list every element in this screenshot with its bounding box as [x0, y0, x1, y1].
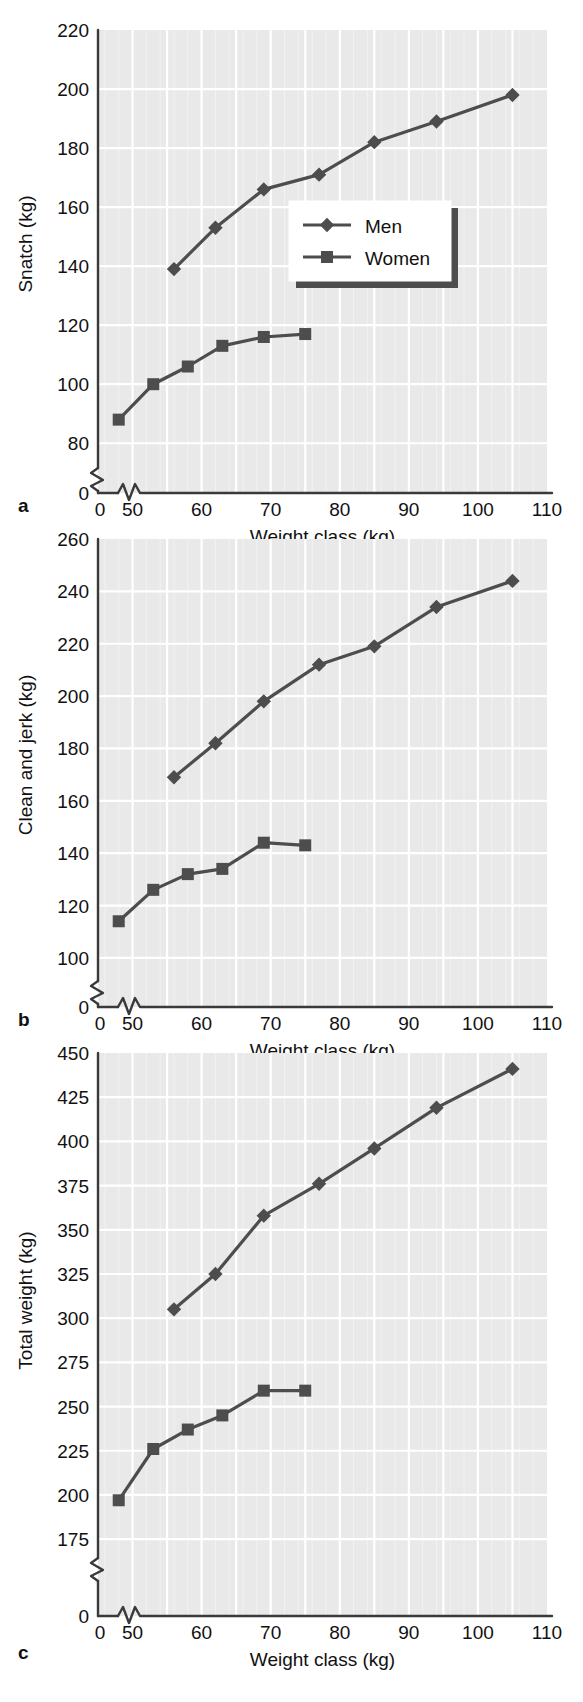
data-point-diamond	[429, 1101, 443, 1115]
y-tick-label: 100	[57, 948, 89, 969]
y-tick-label: 200	[57, 686, 89, 707]
y-tick-label: 220	[57, 20, 89, 41]
x-tick-label: 110	[532, 499, 562, 520]
x-tick-label: 90	[398, 1013, 419, 1034]
axis-lines	[91, 30, 552, 500]
axis-lines	[91, 1053, 552, 1623]
y-tick-label: 260	[57, 529, 89, 550]
legend-marker-diamond	[320, 218, 334, 232]
y-tick-label: 325	[57, 1264, 89, 1285]
series-line	[119, 843, 306, 922]
data-point-diamond	[257, 182, 271, 196]
series-men	[167, 1062, 520, 1317]
legend-marker-square	[321, 251, 333, 263]
data-point-diamond	[257, 694, 271, 708]
y-tick-label: 0	[78, 997, 89, 1018]
x-tick-label: 50	[122, 1622, 143, 1643]
panel-letter-c: c	[18, 1642, 29, 1663]
x-tick-label: 80	[329, 1622, 350, 1643]
series-women	[113, 837, 312, 928]
legend: MenWomen	[289, 201, 458, 288]
minor-grid	[105, 539, 533, 1007]
data-point-square	[147, 378, 159, 390]
major-grid	[98, 30, 547, 493]
data-point-diamond	[208, 221, 222, 235]
legend-shadow	[296, 208, 458, 288]
x-tick-label: 60	[191, 499, 212, 520]
y-axis-title: Total weight (kg)	[15, 1231, 36, 1369]
y-tick-label: 240	[57, 581, 89, 602]
x-tick-label: 90	[398, 499, 419, 520]
series-line	[174, 581, 512, 777]
data-point-square	[182, 1424, 194, 1436]
y-tick-label: 120	[57, 315, 89, 336]
minor-grid	[105, 30, 533, 493]
x-tick-label: 60	[191, 1622, 212, 1643]
data-point-diamond	[505, 88, 519, 102]
data-point-diamond	[505, 1062, 519, 1076]
legend-label: Men	[365, 216, 402, 237]
y-tick-label: 225	[57, 1441, 89, 1462]
data-point-diamond	[367, 135, 381, 149]
data-point-diamond	[505, 574, 519, 588]
major-grid	[98, 539, 547, 1007]
x-tick-label: 110	[532, 1013, 562, 1034]
data-point-square	[182, 360, 194, 372]
data-point-square	[182, 868, 194, 880]
data-point-square	[147, 1443, 159, 1455]
series-men	[167, 574, 520, 785]
data-point-diamond	[167, 1302, 181, 1316]
data-point-diamond	[429, 114, 443, 128]
data-point-diamond	[312, 167, 326, 181]
y-tick-label: 180	[57, 738, 89, 759]
plot-background	[98, 1053, 547, 1548]
data-point-diamond	[429, 600, 443, 614]
minor-grid	[105, 1053, 533, 1616]
x-tick-label: 70	[260, 499, 281, 520]
legend-label: Women	[365, 248, 430, 269]
series-line	[174, 95, 512, 269]
data-point-square	[216, 863, 228, 875]
y-tick-label: 175	[57, 1529, 89, 1550]
plot-background-break	[98, 1548, 547, 1616]
plot-background	[98, 30, 547, 458]
x-tick-label: 50	[122, 1013, 143, 1034]
x-tick-label: 100	[462, 499, 494, 520]
y-tick-label: 200	[57, 79, 89, 100]
x-tick-label: 110	[532, 1622, 562, 1643]
x-tick-label: 90	[398, 1622, 419, 1643]
data-point-diamond	[208, 736, 222, 750]
panel-a-plot: 0801001201401601802002200506070809010011…	[0, 0, 583, 1702]
y-tick-label: 80	[68, 433, 89, 454]
y-tick-labels: 0100120140160180200220240260	[57, 529, 89, 1018]
x-tick-label: 0	[95, 499, 106, 520]
y-tick-label: 180	[57, 138, 89, 159]
y-tick-label: 160	[57, 197, 89, 218]
data-point-diamond	[312, 1177, 326, 1191]
y-axis-title: Clean and jerk (kg)	[15, 675, 36, 836]
y-tick-label: 140	[57, 843, 89, 864]
x-tick-label: 80	[329, 499, 350, 520]
data-point-square	[258, 1385, 270, 1397]
x-axis-title: Weight class (kg)	[250, 1040, 395, 1061]
data-point-square	[299, 328, 311, 340]
series-men	[167, 88, 520, 277]
data-point-diamond	[312, 657, 326, 671]
x-tick-label: 100	[462, 1622, 494, 1643]
x-tick-label: 0	[95, 1622, 106, 1643]
y-tick-label: 425	[57, 1087, 89, 1108]
data-point-square	[299, 839, 311, 851]
data-point-diamond	[167, 770, 181, 784]
y-tick-label: 140	[57, 256, 89, 277]
y-tick-label: 400	[57, 1131, 89, 1152]
data-point-square	[299, 1385, 311, 1397]
y-tick-label: 200	[57, 1485, 89, 1506]
series-line	[119, 334, 306, 420]
x-tick-label: 0	[95, 1013, 106, 1034]
x-tick-labels: 05060708090100110	[95, 1013, 562, 1034]
data-point-diamond	[257, 1208, 271, 1222]
data-point-diamond	[208, 1267, 222, 1281]
data-point-square	[216, 1409, 228, 1421]
panel-letter-b: b	[18, 1009, 30, 1030]
data-point-square	[258, 331, 270, 343]
